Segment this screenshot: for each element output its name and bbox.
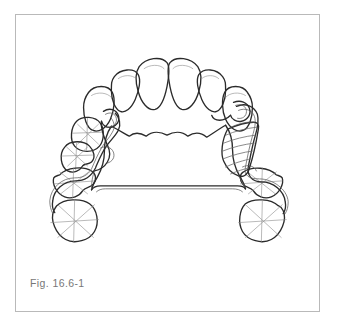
dental-arch-diagram: [16, 15, 319, 311]
lateral-incisor-right: [111, 70, 139, 112]
lateral-incisor-left-detail: [202, 76, 219, 79]
lateral-incisor-left: [197, 70, 225, 112]
figure-caption: Fig. 16.6-1: [30, 277, 85, 289]
premolar-first-left-occlusal: [73, 118, 103, 150]
central-incisor-left: [168, 58, 201, 109]
connector-anterior-border: [111, 125, 225, 137]
figure-frame: Fig. 16.6-1: [15, 14, 320, 312]
canine-right-detail: [92, 93, 112, 97]
clasp-right-retentive-tip: [212, 115, 231, 120]
canine-left-detail: [226, 93, 246, 97]
central-incisor-left-detail: [173, 65, 193, 68]
connector-posterior-inner-edge: [96, 189, 242, 192]
lateral-incisor-right-detail: [118, 76, 136, 79]
occlusal-rest-left: [100, 147, 114, 163]
central-incisor-right-detail: [144, 65, 164, 68]
premolar-second-left-occlusal: [62, 142, 93, 170]
connector-posterior-border: [92, 186, 246, 190]
connector-left-border: [92, 126, 112, 190]
central-incisor-right: [136, 58, 169, 109]
anterior-teeth-group: [84, 58, 253, 131]
